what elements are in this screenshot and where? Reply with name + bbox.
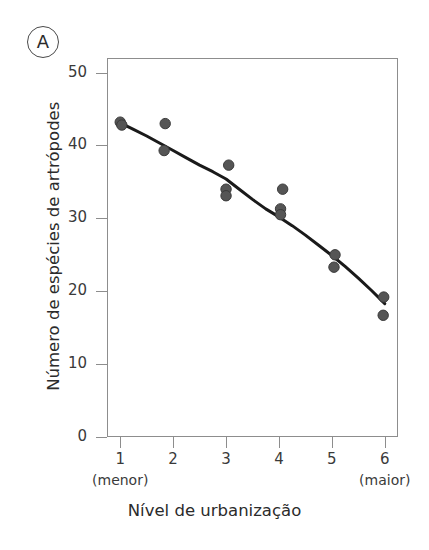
x-tick-mark [226,437,227,448]
y-tick-mark [96,145,107,146]
figure-panel-a: A 01020304050 1(menor)23456(maior) Númer… [0,0,429,550]
y-tick-mark [96,291,107,292]
plot-area [107,58,398,437]
y-tick-mark [96,364,107,365]
data-point [159,145,169,155]
x-tick-label: 4 [259,452,299,467]
x-tick-label: 3 [206,452,246,467]
data-point [329,262,339,272]
data-point [379,292,389,302]
x-tick-label: 5 [312,452,352,467]
data-point [117,120,127,130]
data-point [160,118,170,128]
y-tick-label: 0 [55,429,87,444]
data-point-group [115,117,389,321]
x-axis-label: Nível de urbanização [0,503,429,520]
y-tick-mark [96,73,107,74]
x-tick-mark [332,437,333,448]
data-point [277,184,287,194]
x-tick-mark [279,437,280,448]
x-tick-mark [120,437,121,448]
data-point [223,160,233,170]
data-point [378,310,388,320]
x-tick-mark [173,437,174,448]
x-tick-sublabel: (maior) [340,473,429,487]
data-point [221,191,231,201]
x-tick-mark [385,437,386,448]
data-point [330,250,340,260]
x-tick-label: 2 [153,452,193,467]
data-point [275,210,285,220]
x-tick-label: 6 [365,452,405,467]
panel-label-a: A [27,26,59,58]
y-tick-label: 50 [55,65,87,80]
x-tick-label: 1 [100,452,140,467]
y-axis-label: Número de espécies de artrópodes [46,81,63,411]
y-tick-mark [96,437,107,438]
x-tick-sublabel: (menor) [75,473,165,487]
y-tick-mark [96,218,107,219]
